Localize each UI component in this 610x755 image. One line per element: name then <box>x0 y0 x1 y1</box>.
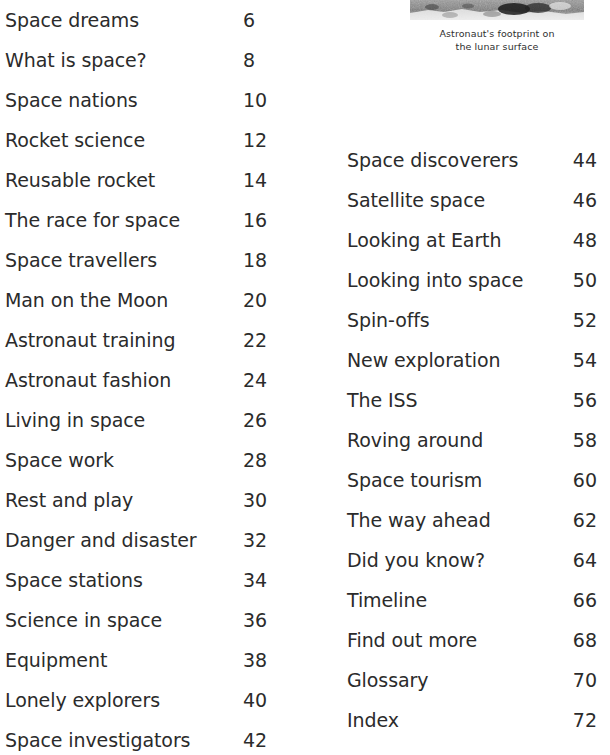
toc-entry-page-number: 50 <box>573 269 602 291</box>
toc-entry[interactable]: Find out more68 <box>347 620 602 660</box>
toc-entry-title: Find out more <box>347 629 477 651</box>
toc-entry-title: Space investigators <box>5 729 243 751</box>
toc-entry-title: Space nations <box>5 89 243 111</box>
toc-entry-title: Looking into space <box>347 269 523 291</box>
toc-entry[interactable]: Astronaut training22 <box>5 320 295 360</box>
toc-entry[interactable]: Space travellers18 <box>5 240 295 280</box>
toc-entry-title: Satellite space <box>347 189 485 211</box>
toc-entry-page-number: 20 <box>243 289 267 311</box>
toc-entry-page-number: 24 <box>243 369 267 391</box>
toc-entry-title: Living in space <box>5 409 243 431</box>
toc-entry[interactable]: Satellite space46 <box>347 180 602 220</box>
toc-entry-title: Space work <box>5 449 243 471</box>
toc-entry-page-number: 14 <box>243 169 267 191</box>
contents-left-column: Space dreams6What is space?8Space nation… <box>5 0 295 755</box>
toc-entry-title: Space tourism <box>347 469 482 491</box>
toc-entry-page-number: 36 <box>243 609 267 631</box>
toc-entry[interactable]: Living in space26 <box>5 400 295 440</box>
toc-entry-title: Timeline <box>347 589 427 611</box>
toc-entry-title: Rest and play <box>5 489 243 511</box>
toc-entry-page-number: 72 <box>573 709 602 731</box>
toc-entry-page-number: 44 <box>573 149 602 171</box>
toc-entry-page-number: 58 <box>573 429 602 451</box>
toc-entry[interactable]: New exploration54 <box>347 340 602 380</box>
toc-entry-page-number: 56 <box>573 389 602 411</box>
toc-entry-title: Astronaut fashion <box>5 369 243 391</box>
toc-entry[interactable]: Science in space36 <box>5 600 295 640</box>
toc-entry[interactable]: Glossary70 <box>347 660 602 700</box>
toc-entry-title: Danger and disaster <box>5 529 243 551</box>
toc-entry-page-number: 62 <box>573 509 602 531</box>
toc-entry-title: The race for space <box>5 209 243 231</box>
toc-entry-page-number: 42 <box>243 729 267 751</box>
toc-entry[interactable]: Roving around58 <box>347 420 602 460</box>
toc-entry[interactable]: Looking at Earth48 <box>347 220 602 260</box>
toc-entry-title: Looking at Earth <box>347 229 501 251</box>
toc-entry[interactable]: Man on the Moon20 <box>5 280 295 320</box>
lunar-footprint-figure: Astronaut's footprint on the lunar surfa… <box>410 0 584 53</box>
toc-entry[interactable]: Looking into space50 <box>347 260 602 300</box>
toc-entry-title: The way ahead <box>347 509 491 531</box>
toc-entry[interactable]: Space investigators42 <box>5 720 295 755</box>
figure-caption-line-2: the lunar surface <box>410 40 584 53</box>
toc-entry-page-number: 26 <box>243 409 267 431</box>
toc-entry[interactable]: Timeline66 <box>347 580 602 620</box>
toc-entry-page-number: 16 <box>243 209 267 231</box>
toc-entry[interactable]: The way ahead62 <box>347 500 602 540</box>
toc-entry-page-number: 64 <box>573 549 602 571</box>
toc-entry-title: Science in space <box>5 609 243 631</box>
toc-entry-page-number: 48 <box>573 229 602 251</box>
toc-entry-page-number: 46 <box>573 189 602 211</box>
toc-entry[interactable]: Space work28 <box>5 440 295 480</box>
toc-entry[interactable]: The race for space16 <box>5 200 295 240</box>
toc-entry[interactable]: Space nations10 <box>5 80 295 120</box>
figure-caption: Astronaut's footprint on the lunar surfa… <box>410 27 584 53</box>
contents-right-column: Space discoverers44Satellite space46Look… <box>347 140 602 740</box>
toc-entry-page-number: 54 <box>573 349 602 371</box>
toc-entry-title: Reusable rocket <box>5 169 243 191</box>
toc-entry[interactable]: Danger and disaster32 <box>5 520 295 560</box>
toc-entry-title: Space dreams <box>5 9 243 31</box>
toc-entry-title: The ISS <box>347 389 417 411</box>
toc-entry[interactable]: Space stations34 <box>5 560 295 600</box>
toc-entry[interactable]: The ISS56 <box>347 380 602 420</box>
toc-entry[interactable]: Did you know?64 <box>347 540 602 580</box>
toc-entry-title: Index <box>347 709 399 731</box>
toc-entry-page-number: 12 <box>243 129 267 151</box>
toc-entry-title: Space discoverers <box>347 149 518 171</box>
toc-entry[interactable]: Rocket science12 <box>5 120 295 160</box>
toc-entry[interactable]: Index72 <box>347 700 602 740</box>
toc-entry-page-number: 52 <box>573 309 602 331</box>
toc-entry-title: Glossary <box>347 669 428 691</box>
toc-entry[interactable]: Space dreams6 <box>5 0 295 40</box>
toc-entry-page-number: 40 <box>243 689 267 711</box>
lunar-surface-illustration <box>410 0 584 20</box>
toc-entry[interactable]: Spin-offs52 <box>347 300 602 340</box>
toc-entry-page-number: 32 <box>243 529 267 551</box>
toc-entry-page-number: 34 <box>243 569 267 591</box>
toc-entry-page-number: 68 <box>573 629 602 651</box>
toc-entry-page-number: 30 <box>243 489 267 511</box>
toc-entry-title: Roving around <box>347 429 483 451</box>
toc-entry-title: Spin-offs <box>347 309 430 331</box>
toc-entry-title: What is space? <box>5 49 243 71</box>
toc-entry[interactable]: Reusable rocket14 <box>5 160 295 200</box>
toc-entry[interactable]: Space discoverers44 <box>347 140 602 180</box>
figure-caption-line-1: Astronaut's footprint on <box>410 27 584 40</box>
toc-entry[interactable]: Equipment38 <box>5 640 295 680</box>
toc-entry[interactable]: Lonely explorers40 <box>5 680 295 720</box>
toc-entry-page-number: 70 <box>573 669 602 691</box>
toc-entry-page-number: 8 <box>243 49 255 71</box>
toc-entry-page-number: 28 <box>243 449 267 471</box>
toc-entry-page-number: 22 <box>243 329 267 351</box>
toc-entry-title: Did you know? <box>347 549 485 571</box>
toc-entry[interactable]: Astronaut fashion24 <box>5 360 295 400</box>
toc-entry[interactable]: What is space?8 <box>5 40 295 80</box>
toc-entry-page-number: 66 <box>573 589 602 611</box>
toc-entry[interactable]: Space tourism60 <box>347 460 602 500</box>
toc-entry-title: Equipment <box>5 649 243 671</box>
toc-entry[interactable]: Rest and play30 <box>5 480 295 520</box>
toc-entry-title: Space stations <box>5 569 243 591</box>
toc-entry-page-number: 18 <box>243 249 267 271</box>
toc-entry-title: New exploration <box>347 349 500 371</box>
